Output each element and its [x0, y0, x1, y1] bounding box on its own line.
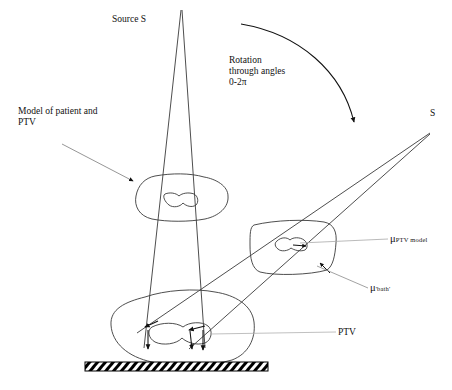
couch-base: [85, 362, 268, 371]
leader-mu-ptv: [300, 239, 388, 243]
mu-ptv-model-label: μPTV model: [390, 233, 427, 245]
model-of-patient-label: Model of patient and PTV: [18, 106, 97, 128]
upper-ptv-outline: [164, 193, 198, 207]
upper-patient-model: [136, 174, 228, 221]
mu-bath-subscript: 'bath': [376, 285, 391, 292]
arrow-left-1: [189, 326, 205, 330]
leader-ptv: [210, 332, 336, 334]
couch-hatched-bar: [85, 362, 268, 371]
lower-patient-model: [111, 290, 254, 365]
rotated-beam-group: [137, 133, 430, 349]
source-s-label: Source S: [112, 14, 146, 25]
mu-bath-label: μ'bath': [370, 282, 390, 294]
vertical-beam-group: [144, 10, 205, 348]
rotated-source-s-label: S: [430, 108, 435, 119]
rot-beam-edge-upper: [137, 133, 430, 333]
beam-edge-left: [144, 10, 181, 348]
lower-ptv-arrows: [145, 321, 205, 350]
lower-patient-outline: [111, 290, 254, 365]
leader-lines: [62, 144, 388, 334]
arrow-down-2: [190, 331, 192, 349]
leader-mu-bath: [317, 266, 368, 288]
lower-ptv-outline: [149, 323, 211, 344]
ptv-label: PTV: [338, 327, 356, 338]
right-ptv-arrowhead: [293, 245, 306, 246]
leader-model-patient: [62, 144, 133, 181]
diagram-canvas: Source S Rotation through angles 0-2π Mo…: [0, 0, 452, 390]
diagram-vector-layer: [0, 0, 452, 390]
right-ptv-outline: [275, 238, 307, 251]
upper-patient-outline: [136, 174, 228, 221]
rotation-label: Rotation through angles 0-2π: [229, 55, 285, 89]
mu-ptv-subscript: PTV model: [396, 236, 428, 243]
beam-edge-right: [182, 10, 205, 348]
